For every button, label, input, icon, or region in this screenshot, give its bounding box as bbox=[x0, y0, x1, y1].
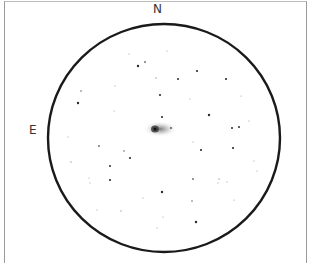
star bbox=[114, 85, 115, 86]
star bbox=[142, 197, 143, 198]
star bbox=[128, 53, 129, 54]
star bbox=[109, 165, 111, 167]
star bbox=[177, 78, 179, 80]
star bbox=[162, 216, 163, 217]
star bbox=[98, 145, 100, 147]
star bbox=[113, 110, 114, 111]
star bbox=[120, 210, 121, 211]
star bbox=[161, 191, 163, 193]
star bbox=[67, 136, 68, 137]
star bbox=[248, 120, 249, 121]
star bbox=[156, 227, 157, 228]
star bbox=[253, 160, 254, 161]
star bbox=[80, 90, 82, 92]
star bbox=[256, 170, 257, 171]
star bbox=[218, 178, 219, 179]
star bbox=[208, 114, 210, 116]
star bbox=[191, 200, 193, 202]
star bbox=[225, 78, 227, 80]
star bbox=[166, 50, 167, 51]
star bbox=[192, 178, 194, 180]
star bbox=[137, 65, 139, 67]
star bbox=[88, 177, 89, 178]
star bbox=[123, 150, 125, 152]
star bbox=[96, 209, 97, 210]
star bbox=[144, 61, 146, 63]
field-of-view-circle bbox=[48, 24, 280, 252]
star bbox=[109, 179, 111, 181]
star bbox=[226, 181, 227, 182]
star-field bbox=[67, 50, 257, 228]
star bbox=[238, 126, 240, 128]
star bbox=[129, 157, 131, 159]
star bbox=[231, 127, 233, 129]
star bbox=[77, 102, 79, 104]
galaxy bbox=[143, 121, 177, 137]
star bbox=[189, 98, 190, 99]
star bbox=[232, 147, 234, 149]
star bbox=[192, 141, 193, 142]
star bbox=[159, 94, 161, 96]
star bbox=[196, 70, 198, 72]
star bbox=[89, 182, 90, 183]
star bbox=[155, 77, 156, 78]
star bbox=[195, 221, 197, 223]
star bbox=[233, 199, 234, 200]
star bbox=[240, 95, 241, 96]
star bbox=[217, 182, 218, 183]
star bbox=[200, 149, 202, 151]
star bbox=[161, 116, 163, 118]
star bbox=[70, 161, 71, 162]
